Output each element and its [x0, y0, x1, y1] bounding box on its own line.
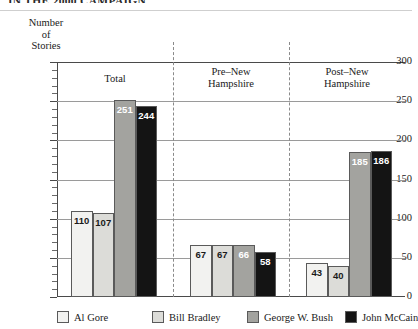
bar-value-label: 67 [213, 249, 233, 260]
y-minor-tick [52, 266, 57, 267]
y-minor-tick [52, 211, 57, 212]
bar[interactable]: 58 [255, 252, 277, 297]
bar-value-label: 66 [234, 249, 254, 260]
legend-item[interactable]: Bill Bradley [152, 310, 221, 324]
y-minor-tick [52, 117, 57, 118]
y-major-tick [50, 219, 57, 220]
bar[interactable]: 251 [114, 100, 136, 297]
y-minor-tick [52, 289, 57, 290]
y-major-tick [50, 101, 57, 102]
y-axis-title: Number of Stories [18, 17, 74, 52]
y-minor-tick [52, 125, 57, 126]
bar[interactable]: 107 [93, 213, 115, 297]
y-minor-tick [52, 250, 57, 251]
group-header: Post–NewHampshire [289, 66, 405, 89]
bar-value-label: 107 [94, 217, 114, 228]
y-minor-tick [52, 234, 57, 235]
bar[interactable]: 67 [212, 245, 234, 297]
group-header-line: Pre–New [173, 66, 289, 78]
y-minor-tick [52, 187, 57, 188]
bar[interactable]: 244 [136, 106, 158, 297]
chart-legend: Al GoreBill BradleyGeorge W. BushJohn Mc… [57, 310, 407, 326]
legend-swatch [247, 311, 259, 323]
y-minor-tick [52, 164, 57, 165]
bar[interactable]: 186 [371, 151, 393, 297]
y-minor-tick [52, 156, 57, 157]
legend-label: George W. Bush [264, 312, 333, 323]
y-minor-tick [52, 195, 57, 196]
bar-value-label: 43 [307, 267, 327, 278]
bar[interactable]: 110 [71, 211, 93, 297]
y-minor-tick [52, 109, 57, 110]
bar-value-label: 40 [329, 270, 349, 281]
y-minor-tick [52, 242, 57, 243]
y-minor-tick [52, 274, 57, 275]
bar-value-label: 244 [137, 110, 157, 121]
bar[interactable]: 43 [306, 263, 328, 297]
legend-item[interactable]: John McCain [345, 310, 418, 324]
legend-item[interactable]: George W. Bush [247, 310, 333, 324]
bar-value-label: 185 [350, 156, 370, 167]
legend-swatch [345, 311, 357, 323]
y-axis-title-line-2: of [18, 29, 74, 41]
y-minor-tick [52, 133, 57, 134]
bar-value-label: 67 [191, 249, 211, 260]
group-header: Total [57, 73, 173, 85]
legend-item[interactable]: Al Gore [57, 310, 108, 324]
y-axis-title-line-3: Stories [18, 40, 74, 52]
legend-swatch [152, 311, 164, 323]
y-minor-tick [52, 227, 57, 228]
y-minor-tick [52, 281, 57, 282]
y-minor-tick [52, 203, 57, 204]
bar-value-label: 186 [372, 155, 392, 166]
legend-swatch [57, 311, 69, 323]
chart-title: IN THE 2000 CAMPAIGN [8, 0, 146, 3]
y-major-tick [50, 140, 57, 141]
legend-label: Bill Bradley [169, 312, 221, 323]
bar-value-label: 251 [115, 104, 135, 115]
y-tick-label: 250 [360, 94, 412, 105]
group-header-line: Hampshire [289, 78, 405, 90]
y-tick-label: 200 [360, 133, 412, 144]
bar[interactable]: 185 [349, 152, 371, 297]
y-minor-tick [52, 86, 57, 87]
bar[interactable]: 66 [233, 245, 255, 297]
bar[interactable]: 40 [328, 266, 350, 297]
y-major-tick [50, 297, 57, 298]
legend-label: John McCain [362, 312, 418, 323]
group-header: Pre–NewHampshire [173, 66, 289, 89]
y-tick-label: 300 [360, 55, 412, 66]
y-minor-tick [52, 172, 57, 173]
bar[interactable]: 67 [190, 245, 212, 297]
y-axis-title-line-1: Number [18, 17, 74, 29]
y-minor-tick [52, 148, 57, 149]
y-minor-tick [52, 70, 57, 71]
bar-value-label: 58 [256, 256, 276, 267]
group-header-line: Post–New [289, 66, 405, 78]
grid-line [57, 140, 405, 141]
y-major-tick [50, 258, 57, 259]
grid-line [57, 101, 405, 102]
y-major-tick [50, 180, 57, 181]
group-header-line: Total [57, 73, 173, 85]
y-major-tick [50, 62, 57, 63]
bar-value-label: 110 [72, 215, 92, 226]
y-minor-tick [52, 93, 57, 94]
title-divider [0, 10, 412, 11]
legend-label: Al Gore [74, 312, 108, 323]
group-header-line: Hampshire [173, 78, 289, 90]
